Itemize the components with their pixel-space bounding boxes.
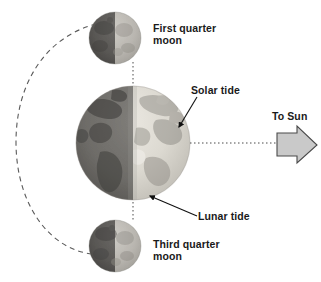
first-quarter-moon-label: First quarter moon (153, 22, 245, 46)
to-sun-label: To Sun (272, 110, 307, 122)
lunar-tide-label: Lunar tide (198, 210, 250, 222)
third-quarter-moon-label: Third quarter moon (153, 238, 245, 262)
solar-tide-leader-line (179, 97, 197, 127)
lunar-tide-leader-line (150, 196, 197, 216)
third-quarter-moon-body (89, 220, 141, 272)
solar-tide-label: Solar tide (191, 84, 240, 96)
first-quarter-moon-body (89, 12, 141, 64)
earth-body (75, 85, 190, 200)
tides-diagram: First quarter moon Third quarter moon So… (0, 0, 321, 282)
to-sun-arrow (277, 126, 317, 163)
